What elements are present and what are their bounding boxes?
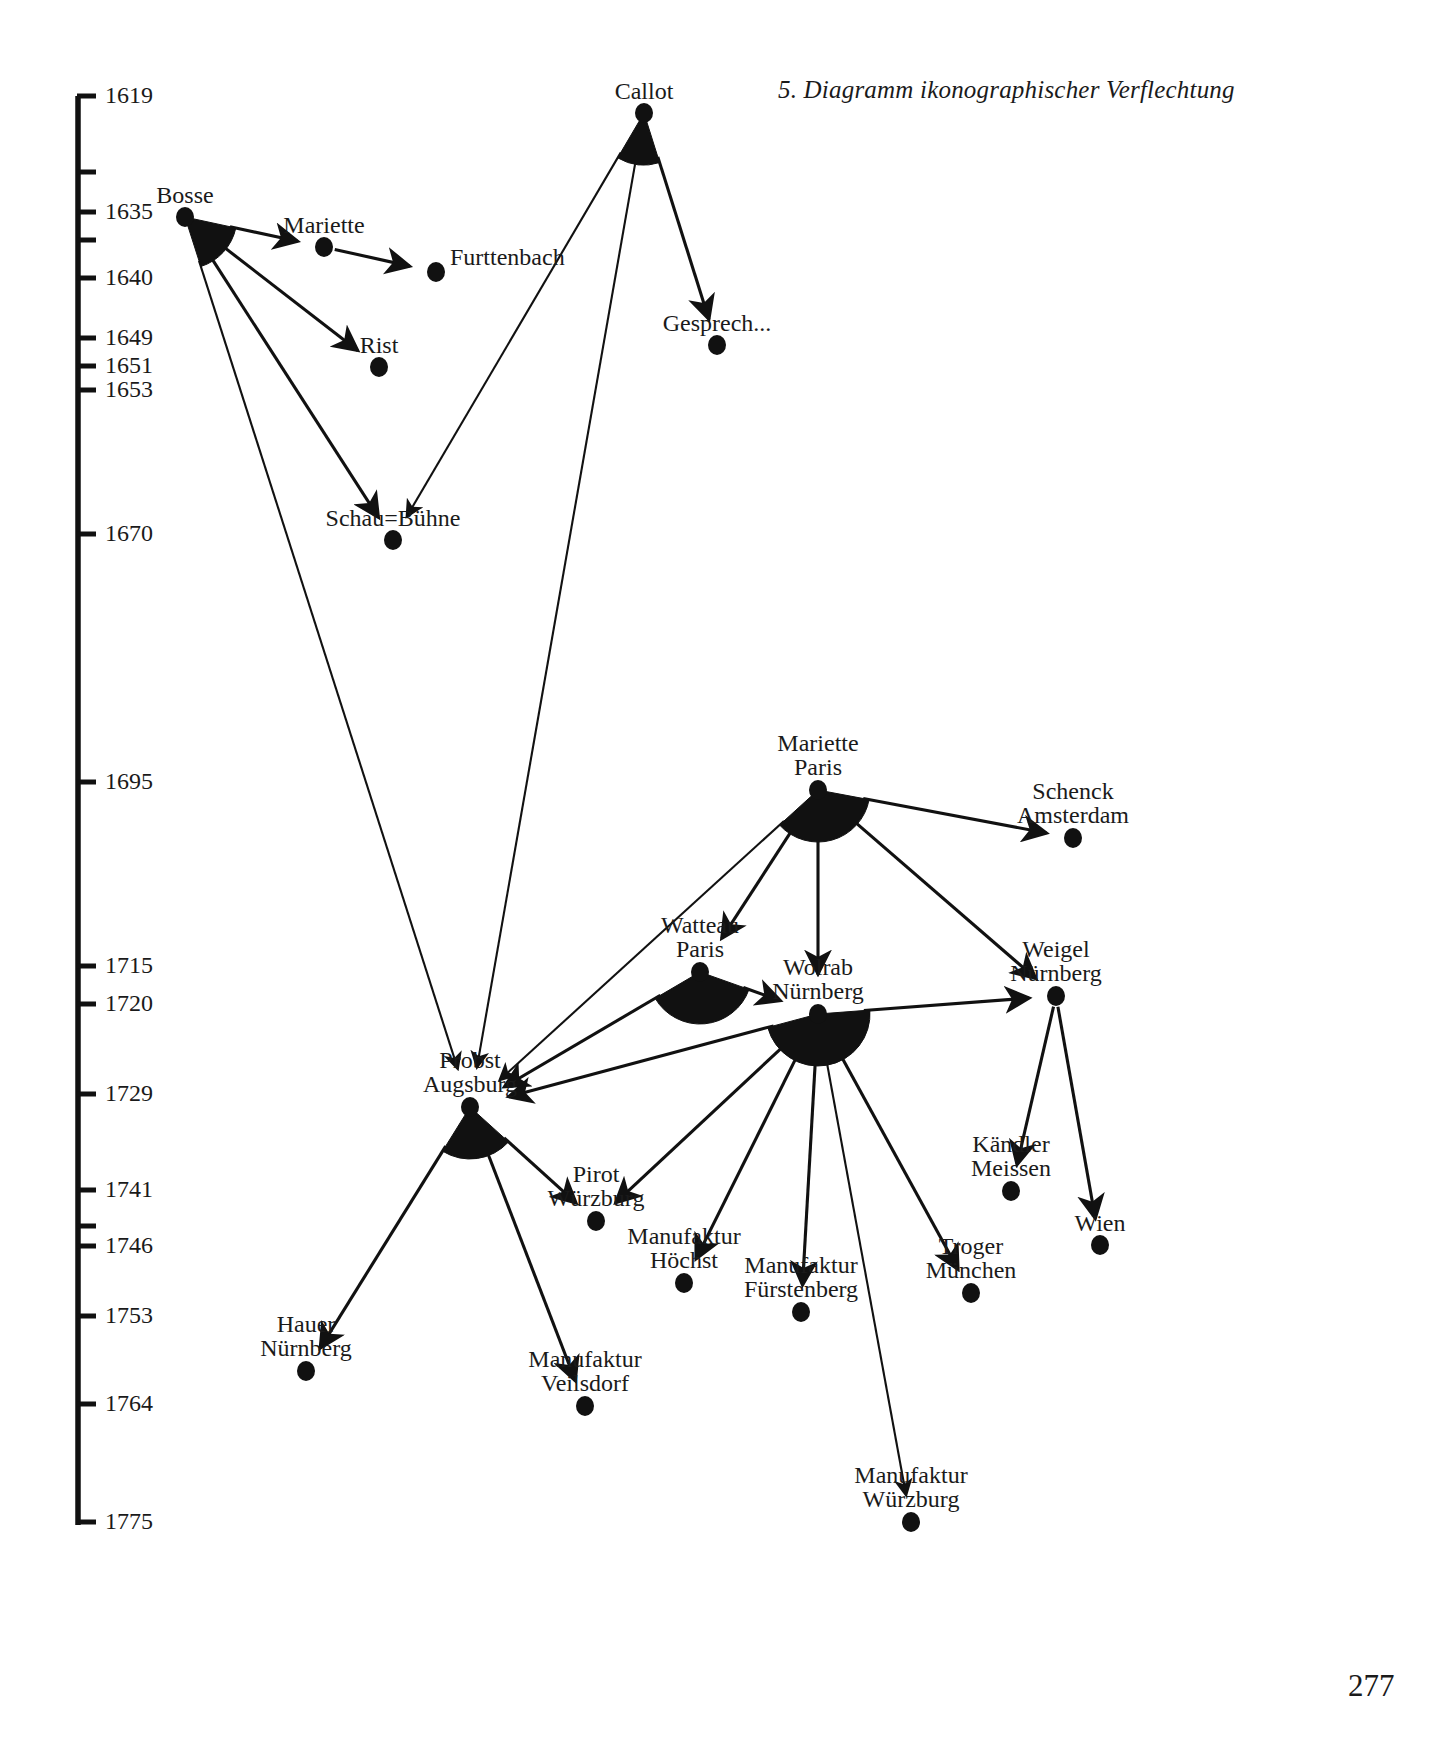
node-label-hauer_nuernberg: HauerNürnberg (260, 1312, 352, 1361)
node-label-schaubuehne: Schau=Bühne (326, 506, 461, 530)
node-bosse[interactable] (176, 207, 236, 267)
node-pirot_wuerzburg[interactable] (587, 1211, 605, 1231)
node-dot (315, 237, 333, 257)
node-label-line: Gesprech... (663, 311, 772, 335)
axis-tick-label: 1635 (105, 199, 153, 223)
node-label-line: Furttenbach (450, 245, 565, 269)
node-dot (691, 962, 709, 982)
node-manufaktur_hoechst[interactable] (675, 1273, 693, 1293)
node-label-line: Manufaktur (528, 1347, 641, 1371)
node-label-mariette_paris: MarietteParis (777, 731, 858, 780)
node-label-line: Nürnberg (772, 979, 864, 1003)
node-label-line: Mariette (777, 731, 858, 755)
node-wolrab_nuernberg[interactable] (768, 1004, 870, 1066)
node-label-callot: Callot (615, 79, 674, 103)
node-label-manufaktur_hoechst: ManufakturHöchst (627, 1224, 740, 1273)
node-fan-wedge (780, 790, 870, 842)
node-schaubuehne[interactable] (384, 530, 402, 550)
node-label-wien: Wien (1074, 1211, 1125, 1235)
edge-callot-to-probst_augsburg (477, 158, 636, 1067)
node-label-line: Höchst (627, 1248, 740, 1272)
node-dot (576, 1396, 594, 1416)
node-label-bosse: Bosse (156, 183, 213, 207)
node-dot (635, 103, 653, 123)
node-label-line: Fürstenberg (744, 1277, 858, 1301)
node-dot (1002, 1181, 1020, 1201)
node-mariette[interactable] (315, 237, 333, 257)
node-manufaktur_veilsdorf[interactable] (576, 1396, 594, 1416)
node-manufaktur_wuerzburg[interactable] (902, 1512, 920, 1532)
node-hauer_nuernberg[interactable] (297, 1361, 315, 1381)
axis-tick-label: 1619 (105, 83, 153, 107)
edge-callot-to-schaubuehne (407, 153, 621, 517)
node-label-line: Weigel (1010, 937, 1102, 961)
node-dot (587, 1211, 605, 1231)
node-troger_muenchen[interactable] (962, 1283, 980, 1303)
node-schenck_amsterdam[interactable] (1064, 828, 1082, 848)
node-dot (675, 1273, 693, 1293)
node-label-rist: Rist (360, 333, 399, 357)
node-label-line: Nürnberg (1010, 961, 1102, 985)
node-label-watteau_paris: WatteauParis (661, 913, 739, 962)
node-dot (1064, 828, 1082, 848)
node-label-troger_muenchen: TrogerMünchen (926, 1234, 1017, 1283)
node-label-pirot_wuerzburg: PirotWürzburg (548, 1162, 645, 1211)
diagram-canvas (0, 0, 1430, 1757)
node-label-line: Manufaktur (744, 1253, 858, 1277)
edge-wolrab_nuernberg-to-weigel_nuernberg (864, 998, 1029, 1010)
node-kaendler_meissen[interactable] (1002, 1181, 1020, 1201)
timeline-axis (77, 96, 96, 1525)
node-dot (792, 1302, 810, 1322)
axis-tick-label: 1775 (105, 1509, 153, 1533)
node-label-line: Mariette (283, 213, 364, 237)
node-wien[interactable] (1091, 1235, 1109, 1255)
node-dot (427, 262, 445, 282)
node-mariette_paris[interactable] (780, 780, 870, 842)
node-label-line: Manufaktur (627, 1224, 740, 1248)
node-callot[interactable] (618, 103, 660, 165)
node-probst_augsburg[interactable] (443, 1097, 509, 1159)
node-label-line: Meissen (971, 1156, 1051, 1180)
node-dot (370, 357, 388, 377)
edge-mariette-to-furttenbach (335, 249, 410, 266)
node-label-line: München (926, 1258, 1017, 1282)
node-label-line: Schau=Bühne (326, 506, 461, 530)
node-label-line: Callot (615, 79, 674, 103)
axis-tick-label: 1720 (105, 991, 153, 1015)
axis-tick-label: 1651 (105, 353, 153, 377)
axis-tick-label: 1649 (105, 325, 153, 349)
node-label-gesprech: Gesprech... (663, 311, 772, 335)
node-dot (1091, 1235, 1109, 1255)
node-label-line: Wien (1074, 1211, 1125, 1235)
axis-tick-label: 1715 (105, 953, 153, 977)
edge-callot-to-gesprech (658, 157, 709, 319)
axis-tick-label: 1695 (105, 769, 153, 793)
axis-tick-label: 1746 (105, 1233, 153, 1257)
axis-tick-label: 1653 (105, 377, 153, 401)
axis-tick-label: 1741 (105, 1177, 153, 1201)
node-label-line: Troger (926, 1234, 1017, 1258)
node-watteau_paris[interactable] (655, 962, 749, 1024)
edge-weigel_nuernberg-to-wien (1058, 1007, 1095, 1219)
node-label-line: Paris (661, 937, 739, 961)
node-weigel_nuernberg[interactable] (1047, 986, 1065, 1006)
node-gesprech[interactable] (708, 335, 726, 355)
node-label-manufaktur_wuerzburg: ManufakturWürzburg (854, 1463, 967, 1512)
node-label-schenck_amsterdam: SchenckAmsterdam (1017, 779, 1129, 828)
axis-tick-label: 1670 (105, 521, 153, 545)
node-label-wolrab_nuernberg: WolrabNürnberg (772, 955, 864, 1004)
diagram-page: 5. Diagramm ikonographischer Verflechtun… (0, 0, 1430, 1757)
node-dot (902, 1512, 920, 1532)
node-furttenbach[interactable] (427, 262, 445, 282)
node-dot (962, 1283, 980, 1303)
node-label-line: Hauer (260, 1312, 352, 1336)
axis-tick-label: 1753 (105, 1303, 153, 1327)
node-label-probst_augsburg: ProbstAugsburg (423, 1048, 517, 1097)
axis-tick-label: 1729 (105, 1081, 153, 1105)
node-dot (1047, 986, 1065, 1006)
node-dot (176, 207, 194, 227)
node-manufaktur_fuerstenberg[interactable] (792, 1302, 810, 1322)
node-rist[interactable] (370, 357, 388, 377)
edge-mariette_paris-to-weigel_nuernberg (853, 820, 1036, 978)
node-dot (384, 530, 402, 550)
